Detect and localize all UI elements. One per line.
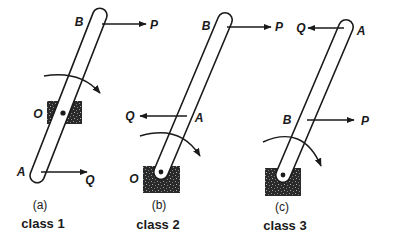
class-label-a: class 1	[21, 217, 64, 230]
label-a-a: A	[17, 166, 26, 178]
label-o-a: O	[33, 108, 42, 120]
label-p-b: P	[275, 21, 283, 33]
label-q-c: Q	[296, 22, 305, 34]
pivot-a	[60, 110, 65, 115]
label-a-b: A	[195, 112, 204, 124]
class-label-b: class 2	[136, 218, 179, 231]
caption-a: (a)	[33, 199, 48, 211]
lever-b	[140, 13, 271, 193]
label-b-c: B	[283, 114, 292, 126]
caption-c: (c)	[275, 201, 289, 213]
label-o-b: O	[129, 173, 138, 185]
label-b-b: B	[202, 20, 211, 32]
label-p-c: P	[361, 115, 369, 127]
pivot-b	[159, 170, 164, 175]
rod-b	[154, 13, 233, 180]
caption-b: (b)	[152, 199, 167, 211]
rod-a	[30, 8, 107, 183]
label-q-b: Q	[125, 110, 134, 122]
label-b-a: B	[75, 16, 84, 28]
lever-a	[30, 8, 146, 183]
label-p-a: P	[150, 19, 158, 31]
label-a-c: A	[357, 25, 366, 37]
class-label-c: class 3	[263, 219, 306, 232]
lever-classes-diagram: B P O A Q (a) class 1 B P A Q O (b) clas…	[0, 0, 396, 240]
pivot-c	[281, 173, 286, 178]
label-q-a: Q	[85, 174, 94, 186]
rod-c	[276, 20, 354, 183]
lever-c	[263, 20, 354, 196]
